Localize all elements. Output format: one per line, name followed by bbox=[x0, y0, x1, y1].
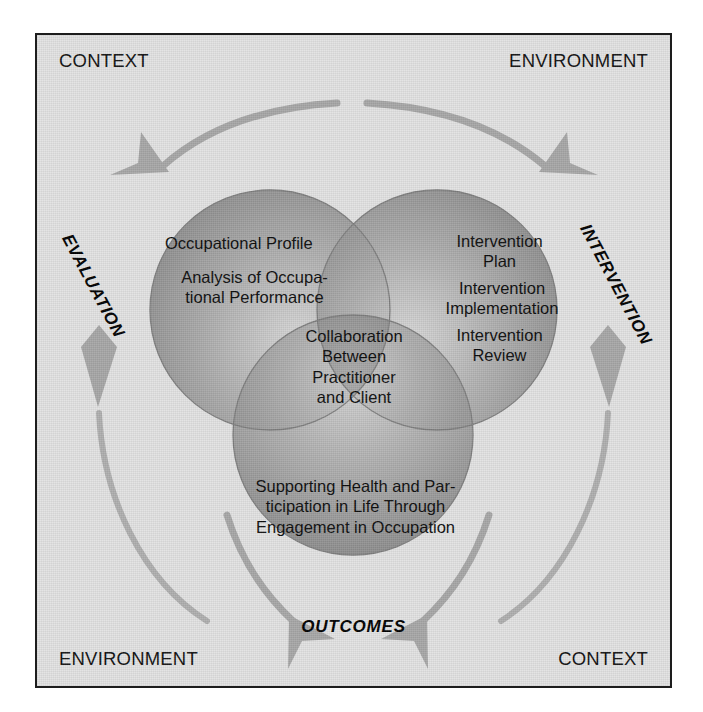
text-collaboration-between-practitioner-and-client: Collaboration Between Practitioner and C… bbox=[259, 326, 449, 408]
corner-label-bottom-left: ENVIRONMENT bbox=[59, 648, 198, 670]
corner-label-top-left: CONTEXT bbox=[59, 50, 149, 72]
diagram-frame: Occupational Profile Analysis of Occupa-… bbox=[35, 33, 672, 688]
corner-label-top-right: ENVIRONMENT bbox=[509, 50, 648, 72]
text-intervention-review: Intervention Review bbox=[432, 325, 567, 366]
corner-label-bottom-right: CONTEXT bbox=[558, 648, 648, 670]
text-intervention-plan: Intervention Plan bbox=[432, 231, 567, 272]
text-occupational-profile: Occupational Profile bbox=[165, 233, 313, 253]
text-intervention-implementation: Intervention Implementation bbox=[422, 278, 582, 319]
text-supporting-health-and-participation: Supporting Health and Par- ticipation in… bbox=[183, 476, 528, 537]
process-label-outcomes: OUTCOMES bbox=[37, 617, 670, 637]
figure-root: Occupational Profile Analysis of Occupa-… bbox=[0, 0, 703, 712]
text-analysis-of-occupational-performance: Analysis of Occupa- tional Performance bbox=[147, 267, 362, 308]
